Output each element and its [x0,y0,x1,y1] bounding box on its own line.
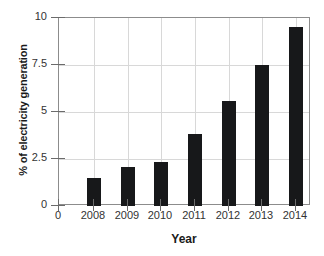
y-axis-label: 7.5 [7,57,47,69]
x-axis-label-2014: 2014 [275,209,315,221]
y-axis-tick [51,64,65,65]
bar-2008 [87,178,101,206]
gridline-horizontal [59,159,309,160]
y-axis-label: 5 [7,104,47,116]
y-axis-tick [51,17,65,18]
y-axis-tick [51,158,65,159]
gridline-horizontal [59,65,309,66]
y-axis-label: 10 [7,10,47,22]
bar-2009 [121,167,135,206]
x-axis-title: Year [58,232,310,246]
bar-2011 [188,134,202,206]
bar-2010 [154,162,168,206]
gridline-vertical [94,18,95,204]
bar-chart: % of electricity generation Year 02.557.… [0,0,324,256]
gridline-horizontal [59,112,309,113]
y-axis-label: 2.5 [7,151,47,163]
bar-2013 [255,65,269,206]
bar-2012 [222,101,236,206]
bar-2014 [289,27,303,206]
x-axis-tick [58,199,59,211]
plot-area [58,17,310,205]
y-axis-tick [51,111,65,112]
